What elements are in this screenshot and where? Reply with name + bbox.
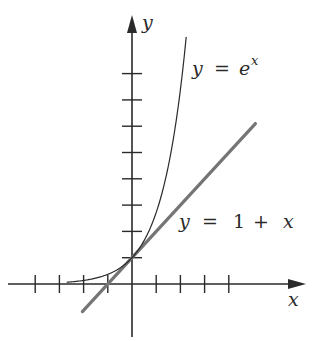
chart: y x y = e x y = 1 + x [0, 0, 312, 341]
line-label-one: 1 [233, 210, 245, 232]
y-axis-label: y [141, 11, 153, 33]
line-annotation: y = 1 + x [178, 210, 294, 232]
line-label-y: y [178, 210, 190, 232]
curve-label-exp: x [251, 53, 259, 68]
y-axis-arrow-icon [127, 15, 137, 33]
line-label-plus: + [253, 210, 269, 232]
line-label-x: x [283, 210, 294, 232]
curve-label-base: e [239, 57, 250, 79]
line-label-eq: = [202, 210, 218, 232]
curve-label-y: y [191, 57, 203, 79]
x-axis-label: x [288, 288, 299, 310]
curve-annotation: y = e x [191, 53, 259, 79]
curve-label-eq: = [214, 57, 230, 79]
